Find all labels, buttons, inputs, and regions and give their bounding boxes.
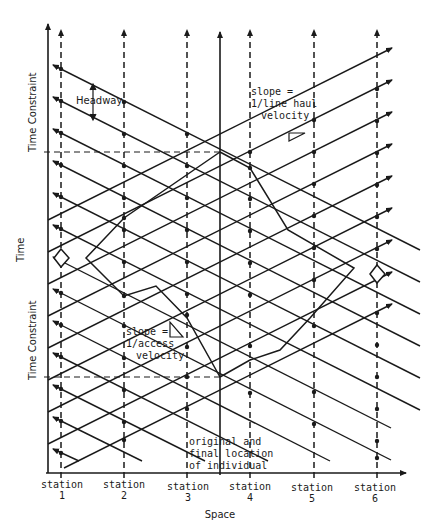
space-time-diagram: Headway slope = 1/line haul velocity slo… (0, 0, 421, 529)
station-4-label: station (229, 481, 271, 492)
access-slope-text-1: slope = (126, 326, 168, 337)
origin-label-2: final location (189, 448, 273, 459)
prism-upper-right (220, 152, 354, 377)
origin-label-3: of individual (189, 460, 267, 471)
station-5-number: 5 (309, 493, 315, 504)
station-3-label: station (167, 481, 209, 492)
station-labels: station 1 station 2 station 3 station 4 … (41, 479, 396, 504)
line-haul-slope-triangle (289, 133, 305, 141)
access-slope-text-2: 1/access (126, 338, 174, 349)
access-slope-text-3: velocity (136, 350, 184, 361)
station-3-number: 3 (185, 492, 191, 503)
time-axis-label: Time (15, 238, 26, 263)
station-2-label: station (103, 479, 145, 490)
station-6-number: 6 (372, 493, 378, 504)
line-haul-slope-text-3: velocity (261, 110, 309, 121)
leftbound-trajectories (53, 65, 420, 461)
station-1-label: station (41, 479, 83, 490)
origin-label-1: original and (189, 436, 261, 447)
line-haul-slope-text-2: 1/line haul (251, 98, 317, 109)
station-2-number: 2 (121, 490, 127, 501)
headway-label: Headway (76, 95, 122, 106)
diamond-station-6 (370, 265, 385, 283)
station-1-number: 1 (59, 490, 65, 501)
time-constraint-upper-label: Time Constraint (27, 72, 38, 153)
station-4-number: 4 (247, 492, 253, 503)
line-haul-slope-text-1: slope = (251, 86, 293, 97)
access-slope-triangle (170, 322, 183, 337)
time-constraint-lower-label: Time Constraint (27, 300, 38, 381)
station-5-label: station (291, 482, 333, 493)
space-axis-label: Space (205, 509, 235, 520)
station-6-label: station (354, 482, 396, 493)
station-dots (59, 67, 379, 460)
